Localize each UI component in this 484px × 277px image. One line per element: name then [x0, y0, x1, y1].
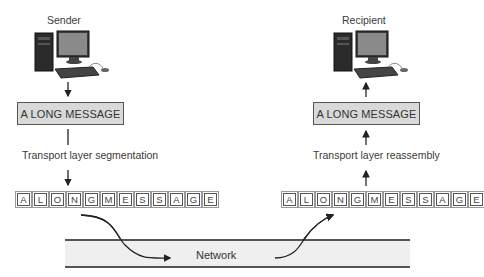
network-curves-overlay — [0, 0, 480, 277]
